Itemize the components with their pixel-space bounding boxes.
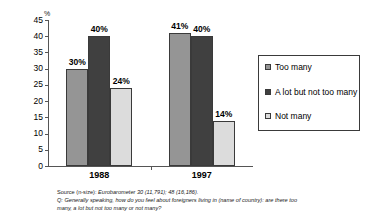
legend-swatch-icon	[265, 113, 271, 119]
y-tick-label: 0	[21, 162, 43, 171]
bar-1997-series-1	[191, 36, 213, 166]
chart-legend: Too manyA lot but not too manyNot many	[258, 55, 360, 131]
footnotes: Source (n-size): Eurobarometer 30 (11,79…	[57, 188, 309, 213]
bar-value-label: 40%	[185, 24, 219, 34]
bar-value-label: 40%	[82, 24, 116, 34]
y-axis-unit-label: %	[44, 10, 50, 18]
bar-value-label: 14%	[207, 109, 241, 119]
question-line-1: Q: Generally speaking, how do you feel a…	[57, 196, 309, 204]
y-tick-label: 30	[21, 64, 43, 73]
y-tick-label: 5	[21, 145, 43, 154]
y-tick-label: 20	[21, 97, 43, 106]
bar-1988-series-2	[110, 88, 132, 166]
bar-value-label: 24%	[104, 76, 138, 86]
bar-1988-series-1	[88, 36, 110, 166]
y-tick-mark	[45, 166, 48, 167]
y-tick-label: 10	[21, 129, 43, 138]
y-tick-label: 15	[21, 113, 43, 122]
legend-swatch-icon	[265, 64, 271, 70]
legend-item-0[interactable]: Too many	[265, 62, 312, 72]
legend-item-1[interactable]: A lot but not too many	[265, 87, 357, 97]
x-category-label: 1997	[172, 170, 232, 181]
question-line-2: many, a lot but not too many or not many…	[57, 204, 309, 212]
y-tick-label: 35	[21, 48, 43, 57]
plot-area: 30%40%24%41%40%14%	[48, 20, 253, 166]
y-tick-label: 40	[21, 32, 43, 41]
legend-item-2[interactable]: Not many	[265, 111, 311, 121]
source-line: Source (n-size): Eurobarometer 30 (11,79…	[57, 188, 309, 196]
y-tick-label: 45	[21, 16, 43, 25]
legend-label: A lot but not too many	[275, 87, 357, 97]
bar-chart: % 051015202530354045 30%40%24%41%40%14% …	[0, 0, 372, 218]
bar-1997-series-2	[213, 121, 235, 166]
legend-swatch-icon	[265, 89, 271, 95]
legend-label: Not many	[275, 111, 311, 121]
bar-1988-series-0	[66, 69, 88, 166]
y-tick-label: 25	[21, 80, 43, 89]
legend-label: Too many	[275, 62, 312, 72]
source-prefix: Source (n-size):	[57, 189, 98, 195]
bar-1997-series-0	[169, 33, 191, 166]
x-category-label: 1988	[69, 170, 129, 181]
x-tick-mark	[151, 167, 152, 170]
source-value: Eurobarometer 30 (11,791); 48 (16,186).	[98, 189, 198, 195]
